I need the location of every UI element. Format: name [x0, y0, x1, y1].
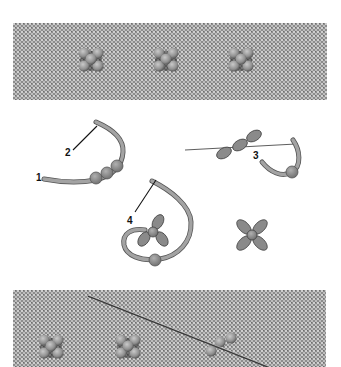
flower-1 [39, 335, 64, 359]
photo-finished-flowers [13, 23, 327, 100]
flower-2 [116, 335, 141, 359]
photo-flowers-with-needle [13, 290, 326, 367]
flower-1 [79, 48, 104, 72]
step-label-3: 3 [253, 150, 259, 161]
flower-3 [229, 48, 254, 72]
flower-2 [154, 48, 179, 72]
finished-flower-diagram [234, 217, 270, 253]
step-label-4: 4 [127, 215, 133, 226]
step-label-1: 1 [36, 172, 42, 183]
step-label-2: 2 [65, 147, 71, 158]
step-1-2-thread: 2 1 [36, 122, 123, 184]
step-4-thread: 4 [123, 165, 193, 266]
step-3-thread: 3 [185, 128, 299, 178]
stitch-diagram: 2 1 3 4 [0, 100, 341, 290]
